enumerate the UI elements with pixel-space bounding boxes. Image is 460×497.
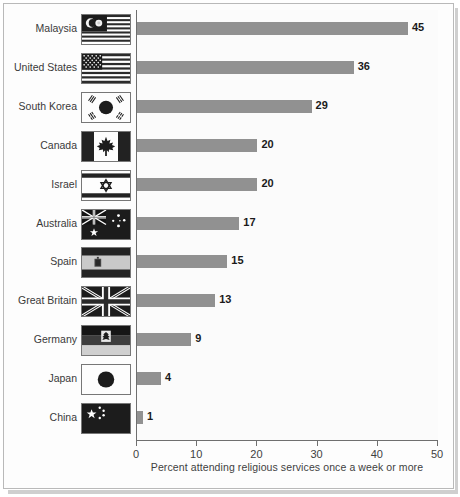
- x-axis-tick-label: 50: [422, 448, 452, 460]
- country-label: Spain: [50, 255, 77, 267]
- flag-japan-icon: [81, 364, 131, 395]
- table-row: Canada 20: [0, 127, 460, 165]
- bar: [137, 372, 161, 385]
- bar: [137, 294, 215, 307]
- x-axis-line: [136, 440, 438, 441]
- bar-value-label: 20: [261, 138, 273, 150]
- x-axis-caption: Percent attending religious services onc…: [136, 461, 438, 473]
- country-label: China: [50, 411, 77, 423]
- bar: [137, 217, 239, 230]
- flag-china-icon: [81, 403, 131, 434]
- country-label: Great Britain: [18, 294, 77, 306]
- bar-value-label: 1: [147, 410, 153, 422]
- table-row: Spain 15: [0, 243, 460, 281]
- table-row: Israel 20: [0, 166, 460, 204]
- bar-value-label: 36: [358, 60, 370, 72]
- bar-value-label: 45: [412, 21, 424, 33]
- x-axis-tick: [136, 441, 137, 446]
- bar-value-label: 9: [195, 332, 201, 344]
- x-axis-tick-label: 0: [121, 448, 151, 460]
- flag-united-states-icon: [81, 53, 131, 84]
- bar: [137, 333, 191, 346]
- x-axis-tick: [317, 441, 318, 446]
- bar-value-label: 17: [243, 216, 255, 228]
- x-axis-tick: [256, 441, 257, 446]
- bar-value-label: 15: [231, 254, 243, 266]
- flag-germany-icon: [81, 325, 131, 356]
- figure-frame-shadow-bottom: [8, 490, 458, 494]
- table-row: United States 36: [0, 49, 460, 87]
- country-label: Canada: [40, 139, 77, 151]
- bar-value-label: 20: [261, 177, 273, 189]
- bar: [137, 139, 257, 152]
- table-row: Malaysia 45: [0, 10, 460, 48]
- bar-value-label: 29: [316, 99, 328, 111]
- country-label: South Korea: [19, 100, 77, 112]
- table-row: South Korea 29: [0, 88, 460, 126]
- x-axis-tick: [377, 441, 378, 446]
- bar: [137, 178, 257, 191]
- bar: [137, 255, 227, 268]
- bar-value-label: 13: [219, 293, 231, 305]
- country-label: Australia: [36, 217, 77, 229]
- x-axis-tick: [196, 441, 197, 446]
- country-label: Japan: [48, 372, 77, 384]
- flag-malaysia-icon: [81, 14, 131, 45]
- country-label: Malaysia: [36, 22, 77, 34]
- table-row: Australia 17: [0, 205, 460, 243]
- table-row: Great Britain 13: [0, 282, 460, 320]
- table-row: China 1: [0, 399, 460, 437]
- x-axis-tick-label: 30: [302, 448, 332, 460]
- country-label: Israel: [51, 178, 77, 190]
- x-axis-tick: [437, 441, 438, 446]
- table-row: Germany 9: [0, 321, 460, 359]
- chart-figure: Malaysia 45United States: [0, 0, 460, 497]
- bar: [137, 22, 408, 35]
- y-axis-line: [136, 10, 137, 440]
- table-row: Japan 4: [0, 360, 460, 398]
- flag-great-britain-icon: [81, 286, 131, 317]
- bar: [137, 411, 143, 424]
- x-axis-tick-label: 20: [241, 448, 271, 460]
- flag-australia-icon: [81, 209, 131, 240]
- flag-canada-icon: [81, 131, 131, 162]
- bar: [137, 61, 354, 74]
- flag-spain-icon: [81, 247, 131, 278]
- x-axis-tick-label: 10: [181, 448, 211, 460]
- country-label: United States: [14, 61, 77, 73]
- bar: [137, 100, 312, 113]
- flag-south-korea-icon: [81, 92, 131, 123]
- bar-value-label: 4: [165, 371, 171, 383]
- country-label: Germany: [34, 333, 77, 345]
- flag-israel-icon: [81, 170, 131, 201]
- x-axis-tick-label: 40: [362, 448, 392, 460]
